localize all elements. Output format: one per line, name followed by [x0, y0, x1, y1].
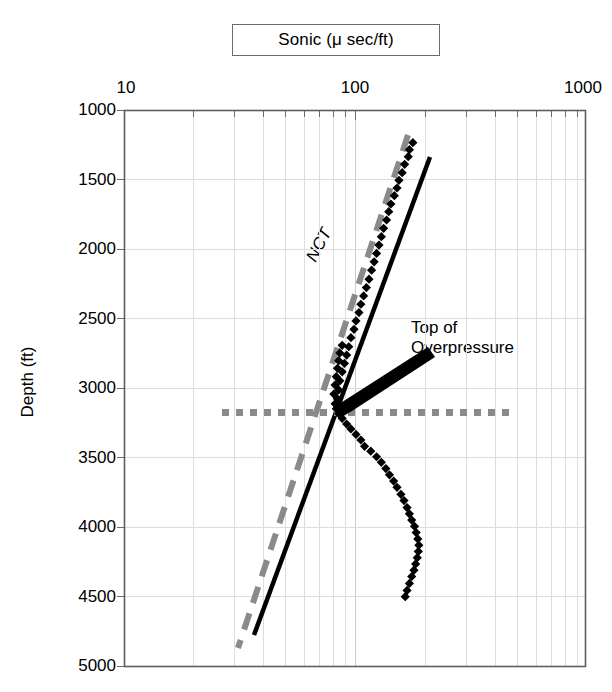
y-axis-ticks [117, 111, 124, 667]
data-point-marker [400, 160, 409, 169]
data-point-marker [370, 257, 379, 266]
plot-canvas [0, 0, 612, 692]
data-point-marker [412, 528, 421, 537]
data-point-marker [384, 207, 393, 216]
data-point-marker [377, 232, 386, 241]
data-point-marker [351, 316, 360, 325]
data-point-marker [342, 350, 351, 359]
data-point-marker [359, 291, 368, 300]
data-point-marker [349, 325, 358, 334]
data-point-marker [366, 447, 375, 456]
data-point-marker [367, 266, 376, 275]
data-point-marker [411, 559, 420, 568]
x-axis-ticks [194, 110, 578, 120]
data-point-marker [374, 240, 383, 249]
overpressure-arrow [339, 347, 435, 418]
data-point-marker [364, 275, 373, 284]
sonic-depth-chart: Sonic (μ sec/ft) 10 100 1000 1000 1500 2… [0, 0, 612, 692]
data-point-marker [392, 183, 401, 192]
data-point-marker [413, 553, 422, 562]
data-point-marker [346, 333, 355, 342]
data-point-marker [405, 579, 414, 588]
data-point-marker [404, 152, 413, 161]
data-point-marker [356, 300, 365, 309]
data-point-marker [372, 249, 381, 258]
data-point-marker [362, 283, 371, 292]
fit-trend-line [254, 157, 430, 635]
